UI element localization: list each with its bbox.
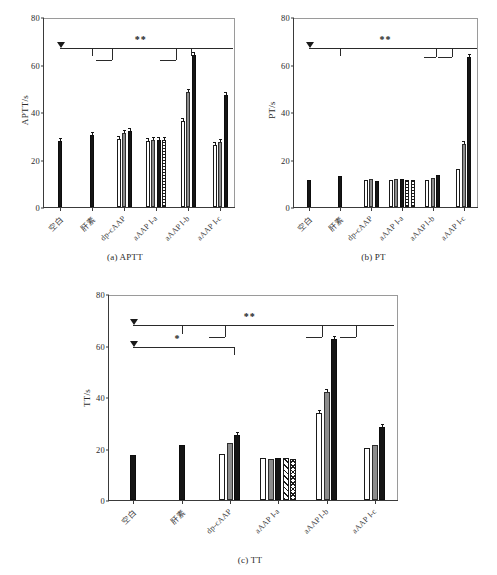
y-axis-tick-mark <box>106 346 109 347</box>
significance-bracket-foot <box>424 57 436 58</box>
bar-b-g1-0 <box>338 176 342 207</box>
bar-b-g4-2 <box>436 175 440 207</box>
bar-b-g5-1 <box>462 144 466 207</box>
y-axis-label-pt: PT/s <box>267 80 277 140</box>
x-axis-tick-mark <box>156 208 157 211</box>
bar-c-g1-0 <box>179 445 185 500</box>
bar-a-g3-0 <box>146 141 150 208</box>
panel-caption-aptt: (a) APTT <box>0 252 250 262</box>
panel-aptt: 020406080** APTT/s (a) APTT 空白肝素dp-cAAPa… <box>0 0 250 278</box>
x-axis-tick-label: 肝素 <box>326 214 345 233</box>
reference-group-triangle-icon <box>306 42 314 48</box>
plot-area-aptt: 020406080** <box>43 18 235 208</box>
bar-b-g5-0 <box>456 169 460 207</box>
y-axis-tick-mark <box>41 113 44 114</box>
significance-marker: ** <box>379 35 391 45</box>
x-axis-tick-mark <box>133 501 134 504</box>
x-axis-tick-mark <box>340 208 341 211</box>
bar-c-g3-4 <box>290 459 296 500</box>
y-axis-tick-mark <box>291 113 294 114</box>
bar-b-g5-2 <box>467 57 471 207</box>
x-axis-tick-mark <box>433 208 434 211</box>
error-bar-line <box>215 143 216 145</box>
bar-a-g2-0 <box>117 139 121 207</box>
bar-b-g2-0 <box>364 180 368 207</box>
x-axis-tick-label: aAAP Ⅰ-c <box>195 214 223 242</box>
bar-c-g5-0 <box>364 448 370 500</box>
x-axis-tick-label: 肝素 <box>77 214 96 233</box>
significance-bracket-tick <box>340 48 341 56</box>
significance-bracket-line <box>133 347 234 348</box>
significance-bracket-line <box>60 48 233 49</box>
x-axis-tick-mark <box>230 501 231 504</box>
error-bar-line <box>60 139 61 141</box>
bar-c-g4-1 <box>324 392 330 500</box>
x-axis-tick-mark <box>124 208 125 211</box>
x-axis-tick-label: dp-cAAP <box>99 214 128 243</box>
bar-c-g3-3 <box>283 458 289 500</box>
y-axis-tick-mark <box>106 501 109 502</box>
x-axis-tick-mark <box>371 208 372 211</box>
plot-frame-right <box>477 18 478 207</box>
bar-c-g2-2 <box>234 435 240 500</box>
bar-a-g5-2 <box>224 95 228 207</box>
plot-frame-right <box>397 295 398 500</box>
error-bar-line <box>159 138 160 140</box>
y-axis-label-tt: TT/s <box>82 368 92 428</box>
x-axis-tick-mark <box>402 208 403 211</box>
bar-b-g3-3 <box>405 180 409 207</box>
error-bar-line <box>119 137 120 139</box>
y-axis-tick-mark <box>41 160 44 161</box>
x-axis-tick-mark <box>375 501 376 504</box>
x-axis-tick-label: aAAP Ⅰ-c <box>350 507 378 535</box>
plot-area-tt: 020406080*** <box>108 295 398 501</box>
x-axis-tick-label: aAAP Ⅰ-b <box>163 214 192 243</box>
bar-a-g5-0 <box>213 145 217 207</box>
bar-a-g1-0 <box>90 135 94 207</box>
x-axis-tick-label: aAAP Ⅰ-a <box>377 214 405 242</box>
error-bar-line <box>319 411 320 413</box>
x-axis-tick-label: aAAP Ⅰ-b <box>301 507 330 536</box>
significance-bracket-foot <box>306 337 322 338</box>
x-axis-tick-mark <box>220 208 221 211</box>
significance-bracket-tick <box>182 325 183 334</box>
x-axis-tick-mark <box>278 501 279 504</box>
error-bar-line <box>188 90 189 92</box>
bar-a-g2-1 <box>122 133 126 207</box>
bar-c-g3-2 <box>275 458 281 500</box>
bar-c-g2-0 <box>219 454 225 500</box>
error-bar-line <box>464 142 465 144</box>
bar-b-g3-1 <box>394 179 398 207</box>
significance-bracket-tick <box>452 48 453 57</box>
x-axis-tick-label: dp-cAAP <box>204 507 233 536</box>
error-bar-line <box>148 139 149 141</box>
significance-bracket-tick <box>322 325 323 337</box>
significance-bracket-foot <box>96 60 112 61</box>
y-axis-tick-mark <box>291 208 294 209</box>
error-bar-line <box>226 93 227 95</box>
significance-bracket-tick <box>436 48 437 57</box>
plot-frame-top <box>109 295 398 296</box>
y-axis-tick-mark <box>106 398 109 399</box>
bar-a-g0-0 <box>58 141 62 208</box>
bar-c-g0-0 <box>130 455 136 500</box>
significance-bracket-foot <box>438 57 452 58</box>
bar-b-g0-0 <box>307 180 311 207</box>
error-bar-line <box>469 55 470 57</box>
bar-b-g3-2 <box>400 179 404 207</box>
y-axis-tick-mark <box>291 18 294 19</box>
error-bar-line <box>194 53 195 55</box>
x-axis-tick-label: 空白 <box>45 214 64 233</box>
bar-c-g5-1 <box>372 445 378 500</box>
significance-bracket-tick <box>92 48 93 56</box>
bar-a-g4-1 <box>186 92 190 207</box>
bar-a-g3-3 <box>162 140 166 207</box>
panel-pt: 020406080** PT/s (b) PT 空白肝素dp-cAAPaAAP … <box>250 0 497 278</box>
y-axis-label-aptt: APTT/s <box>20 80 30 140</box>
y-axis-tick-mark <box>41 18 44 19</box>
significance-bracket-tick <box>176 48 177 60</box>
significance-marker: ** <box>244 312 256 322</box>
x-axis-tick-label: 空白 <box>295 214 314 233</box>
significance-marker: * <box>174 334 180 344</box>
y-axis-tick-mark <box>106 295 109 296</box>
